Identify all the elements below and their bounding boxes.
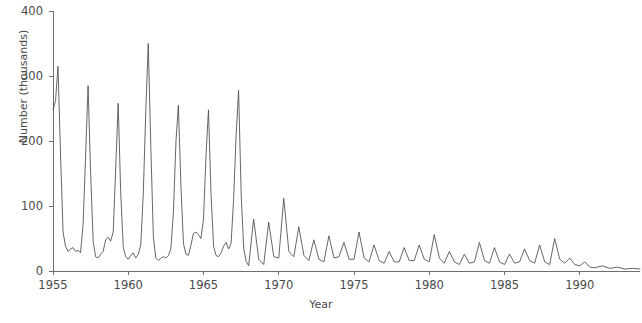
plot-svg bbox=[0, 0, 642, 323]
series-line-0 bbox=[53, 44, 640, 270]
series-group bbox=[53, 44, 640, 270]
chart-container: Number (thousands) Year 0100200300400 19… bbox=[0, 0, 642, 323]
axes-group bbox=[49, 11, 640, 275]
